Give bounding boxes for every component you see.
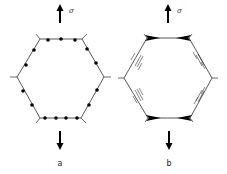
panel-label-b: b xyxy=(166,159,171,168)
stress-arrow-down-a xyxy=(57,131,64,150)
triple-junction-stubs-b xyxy=(118,34,218,122)
diagram-canvas: σ a xyxy=(0,0,227,174)
grain-hexagon-a xyxy=(17,39,104,118)
wedge-cracks-b xyxy=(145,35,192,121)
panel-label-a: a xyxy=(58,159,63,168)
stress-arrow-down-b xyxy=(166,131,173,150)
panel-b: σ b xyxy=(118,4,218,168)
triple-junction-stubs-a xyxy=(10,34,111,123)
sliding-indicators-b xyxy=(131,52,205,104)
sigma-label-b: σ xyxy=(177,7,182,15)
stress-arrow-up-a xyxy=(57,4,64,23)
panel-a: σ a xyxy=(10,4,111,168)
stress-arrow-up-b xyxy=(165,4,172,23)
sigma-label-a: σ xyxy=(69,7,74,15)
grain-hexagon-b xyxy=(124,38,212,118)
